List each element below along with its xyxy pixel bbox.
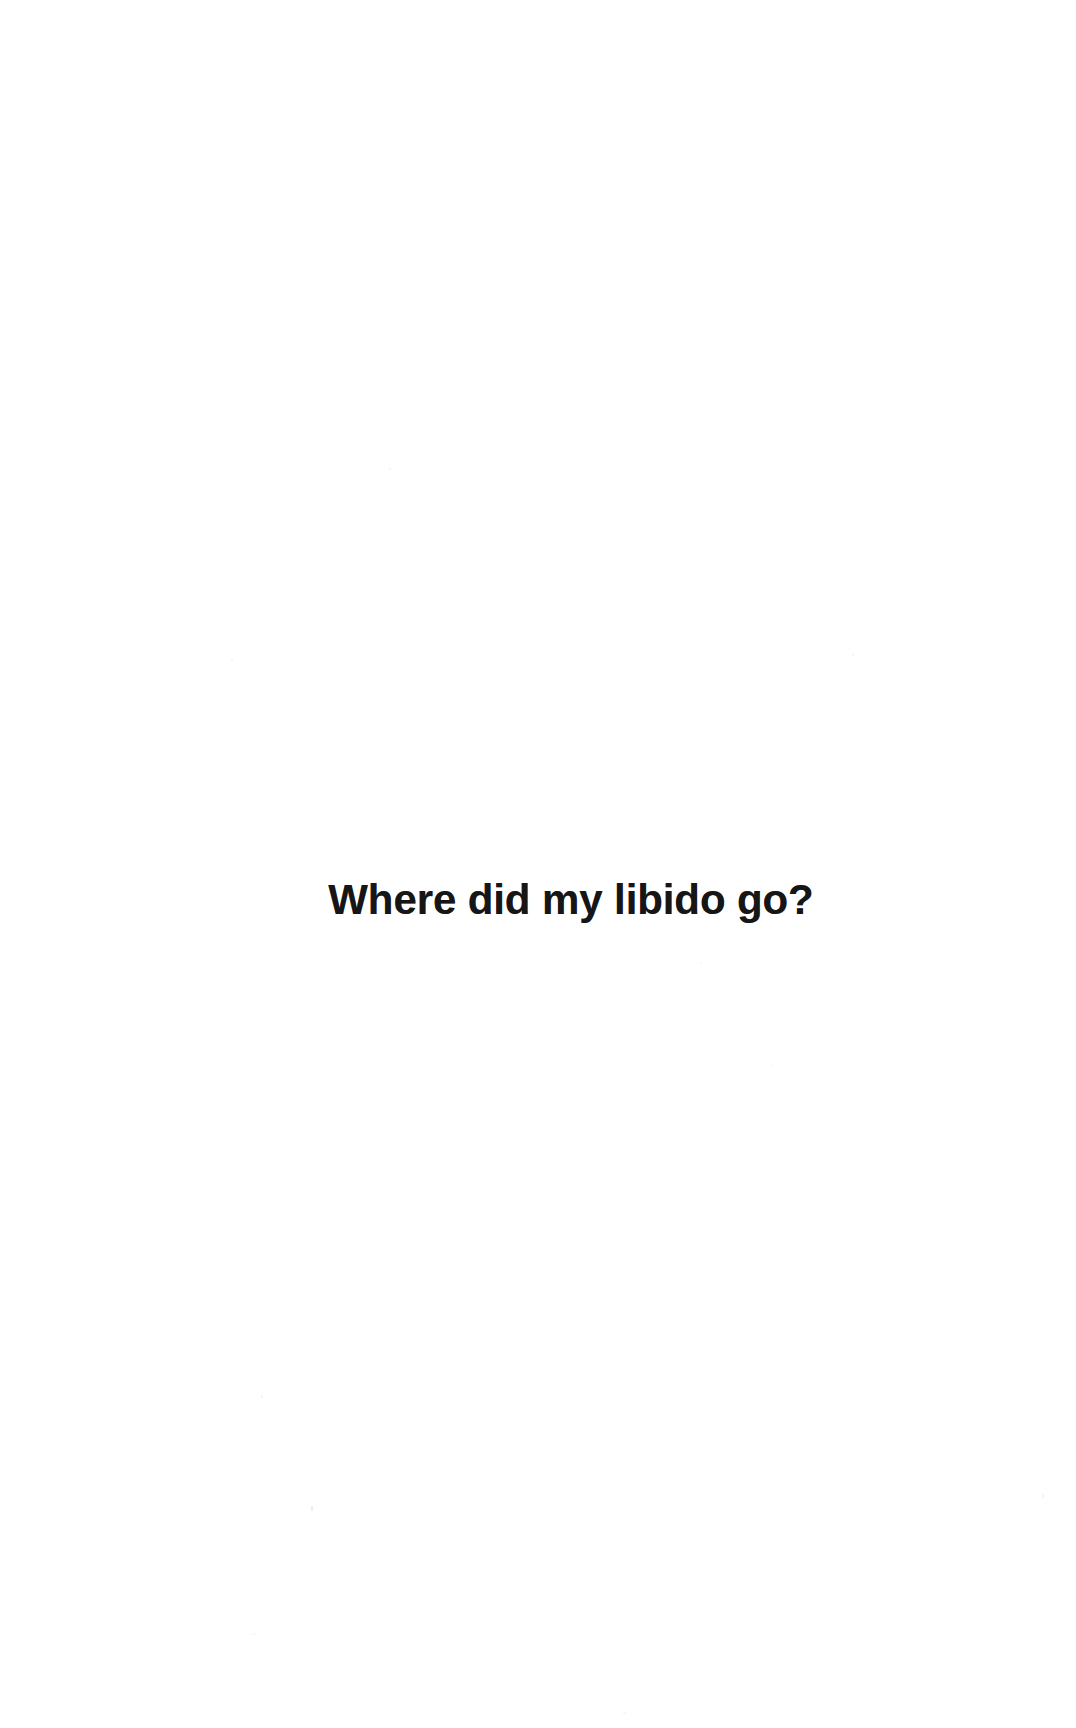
- scan-speckle: [771, 1065, 773, 1067]
- scan-speckle: [389, 468, 391, 470]
- scan-speckle: [623, 1712, 626, 1714]
- scanned-page: Where did my libido go?: [0, 0, 1076, 1728]
- scan-speckle: [231, 659, 233, 661]
- scan-speckle: [261, 1395, 263, 1398]
- scan-speckle: [311, 1506, 313, 1511]
- page-title: Where did my libido go?: [328, 874, 813, 926]
- scan-speckle: [1042, 1494, 1044, 1498]
- page-heading-block: Where did my libido go?: [0, 874, 1076, 926]
- scan-speckle: [700, 962, 702, 964]
- scan-speckle: [852, 654, 854, 656]
- scan-tint-overlay: [0, 0, 1076, 1728]
- scan-speckle: [253, 1633, 255, 1635]
